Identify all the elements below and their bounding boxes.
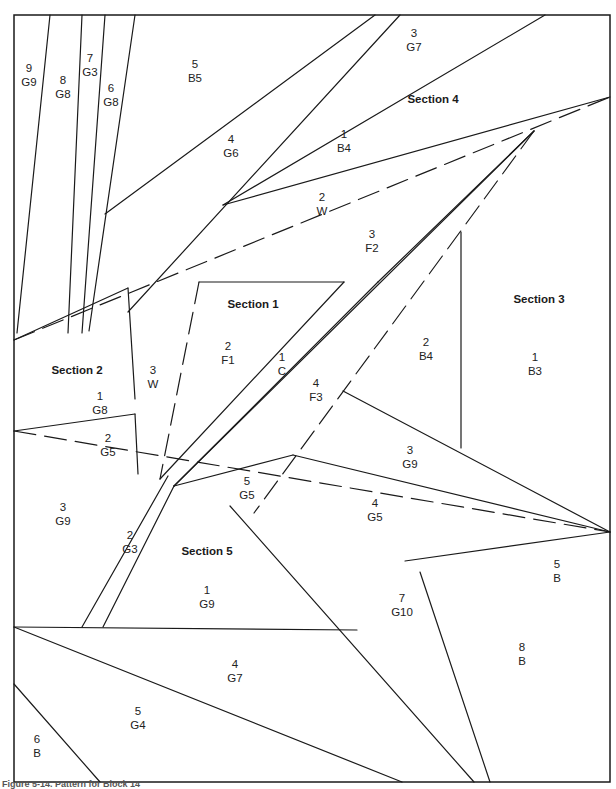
piece-number: 6 — [108, 82, 114, 94]
seam-line — [68, 15, 82, 333]
seam-line — [135, 414, 138, 474]
seam-line — [14, 288, 128, 340]
piece-number: 5 — [192, 58, 198, 70]
piece-label: 2G5 — [100, 432, 115, 458]
seam-line — [14, 627, 402, 782]
piece-label: 3G7 — [406, 27, 421, 53]
piece-label: 2W — [317, 191, 328, 217]
piece-label: 8G8 — [55, 74, 70, 100]
piece-fabric-code: W — [317, 205, 328, 217]
seam-line — [17, 15, 50, 333]
section-labels: Section 1Section 2Section 3Section 4Sect… — [51, 93, 564, 557]
piece-fabric-code: G9 — [199, 598, 214, 610]
piece-fabric-code: G8 — [92, 404, 107, 416]
section-label-section-2: Section 2 — [51, 364, 102, 376]
piece-number: 2 — [225, 340, 231, 352]
piece-label: 4G6 — [223, 133, 238, 159]
seam-line — [128, 15, 400, 312]
piece-number: 7 — [87, 52, 93, 64]
piece-fabric-code: G5 — [100, 446, 115, 458]
piece-fabric-code: C — [278, 365, 286, 377]
piece-fabric-code: G4 — [130, 719, 146, 731]
piece-fabric-code: G9 — [21, 76, 36, 88]
quilt-block-pattern-diagram: Section 1Section 2Section 3Section 4Sect… — [0, 0, 616, 789]
piece-number: 6 — [34, 733, 40, 745]
piece-fabric-code: B — [518, 655, 526, 667]
seam-line — [174, 455, 293, 486]
piece-number: 4 — [313, 377, 320, 389]
section-label-section-3: Section 3 — [513, 293, 564, 305]
piece-label: 6G8 — [103, 82, 118, 108]
piece-fabric-code: B4 — [337, 142, 352, 154]
piece-fabric-code: F3 — [309, 391, 322, 403]
piece-number: 3 — [411, 27, 417, 39]
piece-number: 7 — [399, 592, 405, 604]
piece-label: 7G3 — [82, 52, 97, 78]
seam-line — [223, 97, 610, 205]
seam-line — [343, 391, 610, 532]
piece-number: 5 — [554, 558, 560, 570]
piece-number: 3 — [407, 444, 413, 456]
piece-label: 4F3 — [309, 377, 322, 403]
seam-line — [420, 572, 490, 782]
piece-label: 1G9 — [199, 584, 214, 610]
section-label-section-4: Section 4 — [407, 93, 459, 105]
piece-number: 5 — [135, 705, 141, 717]
seam-line — [223, 15, 545, 205]
piece-label: 3G9 — [55, 501, 70, 527]
section-boundary-lines-dashed — [14, 97, 610, 532]
seam-line — [14, 627, 357, 630]
piece-fabric-code: B — [33, 747, 41, 759]
piece-label: 1B4 — [337, 128, 352, 154]
piece-label: 5G4 — [130, 705, 146, 731]
piece-fabric-code: G8 — [103, 96, 118, 108]
piece-number: 2 — [127, 529, 133, 541]
piece-label: 7G10 — [391, 592, 413, 618]
piece-fabric-code: G5 — [367, 511, 382, 523]
piece-fabric-code: B5 — [188, 72, 202, 84]
piece-number: 2 — [105, 432, 111, 444]
piece-number: 3 — [60, 501, 66, 513]
piece-fabric-code: G10 — [391, 606, 413, 618]
section-boundary-line — [160, 282, 199, 479]
section-label-section-5: Section 5 — [181, 545, 233, 557]
piece-label: 5B — [553, 558, 561, 584]
piece-number: 8 — [60, 74, 66, 86]
piece-number: 5 — [244, 475, 250, 487]
piece-fabric-code: B4 — [419, 350, 434, 362]
piece-number: 4 — [232, 658, 239, 670]
piece-number: 1 — [204, 584, 210, 596]
seam-line — [14, 684, 100, 782]
section-boundary-line — [254, 131, 534, 513]
piece-fabric-code: G8 — [55, 88, 70, 100]
piece-label: 8B — [518, 641, 526, 667]
piece-number: 1 — [341, 128, 347, 140]
piece-fabric-code: F1 — [221, 354, 234, 366]
piece-label: 9G9 — [21, 62, 36, 88]
section-label-section-1: Section 1 — [227, 298, 279, 310]
piece-label: 1C — [278, 351, 286, 377]
piece-number: 3 — [150, 364, 156, 376]
piece-fabric-code: W — [148, 378, 159, 390]
piece-fabric-code: G3 — [122, 543, 137, 555]
seam-line — [105, 15, 375, 214]
piece-number: 8 — [519, 641, 525, 653]
piece-fabric-code: B — [553, 572, 561, 584]
piece-fabric-code: B3 — [528, 365, 542, 377]
piece-label: 3G9 — [402, 444, 417, 470]
piece-label: 3F2 — [365, 228, 378, 254]
piece-fabric-code: G7 — [227, 672, 242, 684]
piece-label: 1B3 — [528, 351, 542, 377]
piece-number: 9 — [26, 62, 32, 74]
figure-caption: Figure 5-14. Pattern for Block 14 — [2, 779, 140, 789]
piece-label: 1G8 — [92, 390, 107, 416]
piece-number: 3 — [369, 228, 375, 240]
seam-line — [89, 15, 135, 331]
piece-number: 4 — [228, 133, 235, 145]
piece-number: 2 — [319, 191, 325, 203]
piece-label: 2F1 — [221, 340, 234, 366]
piece-fabric-code: G7 — [406, 41, 421, 53]
seam-line — [293, 455, 610, 532]
piece-number: 4 — [372, 497, 379, 509]
piece-fabric-code: G5 — [239, 489, 254, 501]
